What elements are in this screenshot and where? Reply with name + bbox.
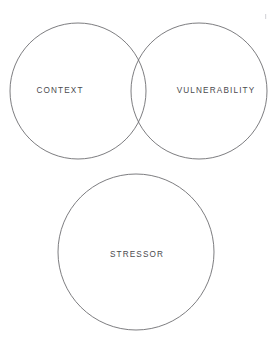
label-vulnerability: VULNERABILITY [177, 86, 256, 95]
venn-diagram: CONTEXT VULNERABILITY STRESSOR [0, 0, 278, 344]
scan-artifact-speck [265, 14, 266, 19]
diagram-background [0, 0, 278, 344]
label-context: CONTEXT [36, 86, 83, 95]
venn-diagram-canvas: CONTEXT VULNERABILITY STRESSOR [0, 0, 278, 344]
label-stressor: STRESSOR [110, 250, 164, 259]
